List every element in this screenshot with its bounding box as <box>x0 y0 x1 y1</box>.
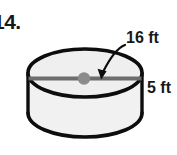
height-label: 5 ft <box>147 79 171 97</box>
center-dot <box>78 72 90 84</box>
cylinder-drawing <box>0 0 177 155</box>
cylinder-figure: 14. 16 ft 5 ft <box>0 0 177 155</box>
diameter-label: 16 ft <box>126 29 159 47</box>
